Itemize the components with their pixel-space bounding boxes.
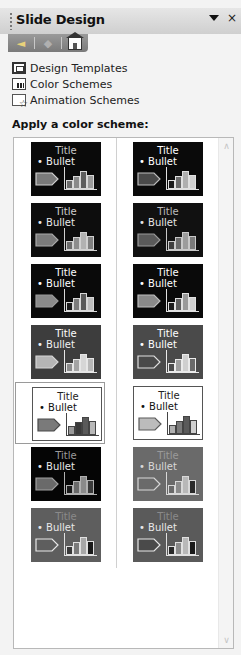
scheme-thumbnail: Title• Bullet [133,447,203,501]
pentagon-arrow-icon [138,417,162,431]
bar-chart-icon [64,533,97,557]
color-schemes-icon [12,78,26,90]
apply-color-scheme-label: Apply a color scheme: [12,118,149,131]
scheme-thumbnail: Title• Bullet [133,386,203,440]
bar-chart-icon [66,413,99,437]
scheme-thumbnail: Title• Bullet [31,447,101,501]
thumbnail-bullet-text: • Bullet [139,156,177,167]
link-animation-schemes[interactable]: Animation Schemes [12,92,140,108]
bar-chart-icon [167,412,200,436]
thumbnail-bullet-text: • Bullet [139,522,177,533]
thumbnail-title-text: Title [133,206,203,217]
bar-chart-icon [64,167,97,191]
bar-chart-icon [64,228,97,252]
color-scheme-option[interactable]: Title• Bullet [117,443,207,505]
color-scheme-option[interactable]: Title• Bullet [117,199,207,261]
color-scheme-gallery[interactable]: Title• BulletTitle• BulletTitle• BulletT… [13,137,234,649]
thumbnail-title-text: Title [33,391,102,402]
thumbnail-bullet-text: • Bullet [37,156,75,167]
color-scheme-option[interactable]: Title• Bullet [117,138,207,200]
scheme-thumbnail: Title• Bullet [133,508,203,562]
bar-chart-icon [166,228,199,252]
pane-title: Slide Design [16,12,105,27]
scheme-thumbnail: Title• Bullet [133,264,203,318]
thumbnail-bullet-text: • Bullet [139,461,177,472]
color-scheme-option[interactable]: Title• Bullet [117,504,207,566]
thumbnail-bullet-text: • Bullet [37,522,75,533]
pentagon-arrow-icon [137,477,161,491]
bar-chart-icon [64,350,97,374]
thumbnail-title-text: Title [31,450,101,461]
scheme-thumbnail: Title• Bullet [31,508,101,562]
vertical-scrollbar[interactable]: ∧ ∨ [218,138,233,648]
pentagon-arrow-icon [37,418,61,432]
pentagon-arrow-icon [35,355,59,369]
thumbnail-bullet-text: • Bullet [37,461,75,472]
back-button[interactable]: ◄ [8,34,34,52]
thumbnail-title-text: Title [133,511,203,522]
color-scheme-option[interactable]: Title• Bullet [15,443,105,505]
color-scheme-option[interactable]: Title• Bullet [15,199,105,261]
bar-chart-icon [166,289,199,313]
thumbnail-bullet-text: • Bullet [139,278,177,289]
thumbnail-title-text: Title [133,450,203,461]
color-scheme-option[interactable]: Title• Bullet [15,138,105,200]
color-scheme-option[interactable]: Title• Bullet [15,260,105,322]
thumbnail-title-text: Title [133,328,203,339]
forward-arrow-icon: ◆ [44,37,52,50]
scheme-thumbnail: Title• Bullet [32,387,102,441]
color-scheme-option[interactable]: Title• Bullet [15,382,105,444]
link-design-templates[interactable]: Design Templates [12,60,140,76]
bar-chart-icon [64,472,97,496]
thumbnail-title-text: Title [31,511,101,522]
bar-chart-icon [64,289,97,313]
thumbnail-bullet-text: • Bullet [37,217,75,228]
home-button[interactable] [62,34,88,52]
thumbnail-title-text: Title [31,328,101,339]
pentagon-arrow-icon [35,233,59,247]
bar-chart-icon [166,167,199,191]
pentagon-arrow-icon [137,172,161,186]
thumbnail-bullet-text: • Bullet [139,217,177,228]
slide-design-links: Design Templates Color Schemes Animation… [12,60,140,108]
slide-design-task-pane: Slide Design × ◄ ◆ Design Templates Colo… [0,0,241,655]
thumbnail-title-text: Title [31,145,101,156]
task-pane-navigation: ◄ ◆ [8,34,88,52]
design-templates-icon [12,62,26,74]
task-pane-title-bar: Slide Design × [0,8,241,34]
scroll-up-button[interactable]: ∧ [220,139,233,153]
color-scheme-option[interactable]: Title• Bullet [117,382,207,444]
link-label: Design Templates [30,62,127,75]
pane-menu-dropdown-button[interactable] [209,15,219,21]
link-label: Animation Schemes [30,94,140,107]
color-scheme-option[interactable]: Title• Bullet [117,321,207,383]
animation-schemes-icon [12,94,26,106]
color-scheme-option[interactable]: Title• Bullet [15,504,105,566]
pentagon-arrow-icon [137,355,161,369]
link-color-schemes[interactable]: Color Schemes [12,76,140,92]
scheme-thumbnail: Title• Bullet [31,203,101,257]
forward-button[interactable]: ◆ [35,34,61,52]
thumbnail-title-text: Title [31,206,101,217]
color-scheme-option[interactable]: Title• Bullet [117,260,207,322]
close-button[interactable]: × [227,11,237,25]
drag-grip-icon[interactable] [10,12,12,30]
scheme-thumbnail: Title• Bullet [31,325,101,379]
scheme-thumbnail: Title• Bullet [31,142,101,196]
bar-chart-icon [166,350,199,374]
link-label: Color Schemes [30,78,112,91]
scroll-down-button[interactable]: ∨ [220,633,233,647]
thumbnail-bullet-text: • Bullet [37,339,75,350]
bar-chart-icon [166,472,199,496]
thumbnail-title-text: Title [31,267,101,278]
thumbnail-bullet-text: • Bullet [139,339,177,350]
thumbnail-title-text: Title [134,390,203,401]
thumbnail-title-text: Title [133,267,203,278]
color-scheme-option[interactable]: Title• Bullet [15,321,105,383]
pentagon-arrow-icon [35,477,59,491]
thumbnail-title-text: Title [133,145,203,156]
back-arrow-icon: ◄ [17,37,25,50]
pentagon-arrow-icon [137,294,161,308]
scheme-thumbnail: Title• Bullet [31,264,101,318]
pentagon-arrow-icon [137,233,161,247]
